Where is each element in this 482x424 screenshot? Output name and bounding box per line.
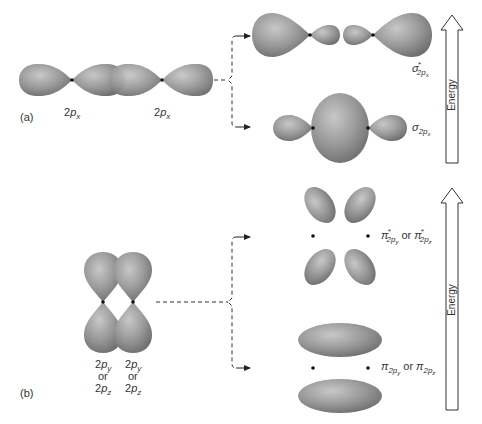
- panel-a: 2px 2px (a) σ*2px σ2px: [19, 13, 463, 163]
- svg-text:or: or: [98, 370, 108, 382]
- svg-text:or: or: [128, 370, 138, 382]
- energy-label-b: Energy: [446, 284, 457, 316]
- mo-diagram: 2px 2px (a) σ*2px σ2px: [0, 0, 482, 424]
- node-dot: [311, 126, 315, 130]
- panel-b: 2py or 2pz 2py or 2pz (b) π*2pyorπ*2pz: [20, 181, 463, 413]
- dashed-bracket-b: [156, 237, 236, 368]
- node-dot: [101, 300, 105, 304]
- svg-text:2pz: 2pz: [95, 382, 111, 397]
- panel-a-label: (a): [20, 111, 33, 123]
- node-dot: [366, 126, 370, 130]
- panel-b-label: (b): [20, 387, 33, 399]
- dashed-bracket-a: [214, 36, 236, 127]
- atomic-orbital-2px-right: [109, 64, 213, 96]
- energy-label-a: Energy: [446, 79, 457, 111]
- node-dot: [311, 234, 315, 238]
- mo-pi-2p: [298, 323, 382, 413]
- node-dot: [308, 33, 312, 37]
- mo-sigma-star-2px: [252, 13, 432, 57]
- label-2px-right: 2px: [154, 106, 171, 121]
- label-2py-or-2pz-right: 2py or 2pz: [125, 358, 142, 397]
- atomic-orbital-2py-right: [114, 252, 152, 353]
- label-pi-star-2p: π*2pyorπ*2pz: [381, 227, 432, 245]
- node-dot: [366, 234, 370, 238]
- energy-arrow-b: Energy: [441, 188, 463, 410]
- label-2px-left: 2px: [64, 106, 81, 121]
- label-2py-or-2pz-left: 2py or 2pz: [95, 358, 112, 397]
- node-dot: [160, 78, 164, 82]
- energy-arrow-a: Energy: [441, 15, 463, 163]
- svg-text:2pz: 2pz: [125, 382, 141, 397]
- mo-pi-star-2p: [298, 181, 382, 291]
- node-dot: [371, 33, 375, 37]
- node-dot: [311, 366, 315, 370]
- label-sigma-star-2px: σ*2px: [412, 60, 430, 78]
- label-sigma-2px: σ2px: [412, 121, 432, 137]
- node-dot: [366, 366, 370, 370]
- node-dot: [70, 78, 74, 82]
- node-dot: [131, 300, 135, 304]
- mo-sigma-2px: [273, 93, 407, 163]
- label-pi-2p: π2pyorπ2pz: [381, 360, 435, 376]
